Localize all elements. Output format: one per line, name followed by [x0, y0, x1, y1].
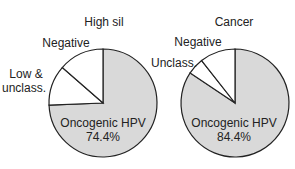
pie1-label-low-1: Low & — [9, 67, 42, 81]
pie1-label-low-2: unclass. — [2, 81, 46, 95]
pie2-label-oncogenic: Oncogenic HPV — [191, 116, 276, 130]
pie2-label-oncogenic-value: 84.4% — [217, 130, 251, 144]
pie2-title: Cancer — [215, 15, 254, 29]
pie1-label-oncogenic: Oncogenic HPV — [60, 116, 145, 130]
pie2-label-negative: Negative — [174, 35, 222, 49]
pie1-label-oncogenic-value: 74.4% — [86, 130, 120, 144]
pie-charts: High sil Cancer Negative Low & unclass. … — [0, 0, 295, 169]
pie2-label-unclass: Unclass. — [151, 56, 197, 70]
pie1-title: High sil — [84, 15, 123, 29]
pie1-label-negative: Negative — [42, 36, 90, 50]
